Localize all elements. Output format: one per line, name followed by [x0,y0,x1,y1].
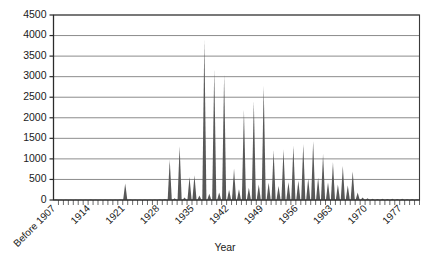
y-tick-label: 0 [41,193,47,205]
y-tick-label: 2500 [23,90,47,102]
plot-border-group [54,15,420,200]
x-tick-label: 1921 [103,202,127,226]
bar [267,183,271,200]
bar [237,189,241,200]
gridlines [54,15,420,179]
y-tick-label: 1500 [23,131,47,143]
y-tick-label: 1000 [23,152,47,164]
plot-border [54,15,420,200]
bar [212,69,216,200]
y-tick-label: 3000 [23,69,47,81]
bar [281,149,285,200]
x-tick-label: 1956 [276,202,300,226]
y-tick-label: 4500 [23,8,47,20]
x-tick-label: 1949 [242,202,266,226]
bar [306,179,310,200]
x-tick-label: 1963 [311,202,335,226]
spike-chart: 050010001500200025003000350040004500 Bef… [0,0,430,275]
x-tick-label: 1928 [138,202,162,226]
bar [227,190,231,200]
y-tick-label: 2000 [23,111,47,123]
y-axis [50,15,54,200]
x-tick-label: 1977 [380,202,404,226]
bar [202,40,206,200]
bar [346,186,350,200]
bar [123,184,127,200]
bar [301,144,305,200]
bar [178,146,182,200]
bar [291,146,295,200]
x-tick-label: 1970 [345,202,369,226]
x-tick-label: 1914 [68,202,92,226]
y-tick-label: 4000 [23,28,47,40]
bar [247,188,251,200]
bar [168,160,172,200]
bar [242,110,246,200]
bar [207,194,211,200]
x-axis [54,200,420,205]
bar [192,175,196,200]
x-axis-title: Year [214,241,236,253]
x-tick-label: 1935 [172,202,196,226]
bar [257,184,261,200]
bar [252,101,256,200]
bar [336,184,340,200]
y-tick-label: 500 [29,172,47,184]
bar [316,178,320,200]
bar [351,171,355,200]
chart-container: 050010001500200025003000350040004500 Bef… [0,0,430,275]
bar [341,166,345,200]
x-tick-label: Before 1907 [11,202,58,249]
bar [331,162,335,200]
bars-group [54,40,419,200]
bar [217,193,221,200]
x-tick-labels: Before 190719141921192819351942194919561… [11,202,404,249]
bar [197,195,201,200]
bar [296,181,300,200]
bar [276,186,280,200]
bar [222,74,226,200]
y-tick-label: 3500 [23,49,47,61]
y-tick-labels: 050010001500200025003000350040004500 [23,8,47,205]
bar [311,141,315,200]
bar [321,154,325,200]
bar [356,193,360,200]
bar [326,182,330,200]
bar [286,182,290,200]
bar [272,150,276,200]
bar [262,86,266,200]
x-tick-label: 1942 [207,202,231,226]
bar [232,169,236,200]
bar [187,177,191,200]
